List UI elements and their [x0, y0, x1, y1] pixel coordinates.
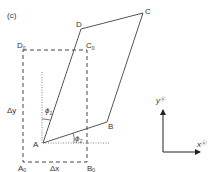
- delta-x-label: Δx: [50, 164, 59, 172]
- deformed-element: [43, 13, 143, 143]
- point-C-label: C: [145, 7, 151, 16]
- point-A-label: A: [33, 140, 39, 149]
- phi1-arc: [42, 119, 50, 120]
- x-axis-label: xⓔ: [196, 140, 207, 149]
- deformation-diagram: (c) D C B A D0 C0 A0 B0 Δy Δx ϕ1 ϕ2 yⓔ x…: [0, 0, 214, 172]
- coordinate-axes: yⓔ xⓔ: [155, 96, 207, 152]
- delta-y-label: Δy: [7, 106, 16, 115]
- point-B0-label: B0: [87, 164, 95, 172]
- point-A0-label: A0: [18, 164, 26, 172]
- panel-label: (c): [7, 11, 17, 20]
- point-B-label: B: [108, 122, 113, 131]
- phi2-label: ϕ2: [75, 134, 82, 144]
- point-D-label: D: [76, 20, 82, 29]
- y-axis-label: yⓔ: [155, 96, 166, 105]
- point-D0-label: D0: [17, 41, 26, 51]
- point-C0-label: C0: [86, 41, 95, 51]
- phi1-label: ϕ1: [45, 106, 52, 116]
